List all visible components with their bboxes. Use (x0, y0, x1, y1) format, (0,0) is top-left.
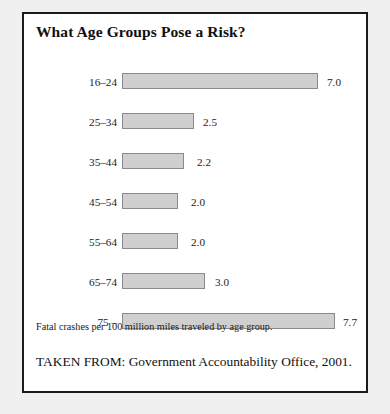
bar-row: 65–74 3.0 (24, 273, 366, 291)
bar-row: 45–54 2.0 (24, 193, 366, 211)
bar-rect (122, 193, 178, 209)
bar-rect (122, 153, 184, 169)
bar-value-label: 2.0 (191, 234, 205, 250)
bar-category-label: 55–64 (24, 234, 117, 250)
bar-row: 35–44 2.2 (24, 153, 366, 171)
bar-row: 25–34 2.5 (24, 113, 366, 131)
bar-category-label: 16–24 (24, 74, 117, 90)
source-attribution: TAKEN FROM: Government Accountability Of… (36, 354, 352, 370)
bar-value-label: 2.0 (191, 194, 205, 210)
bar-row: 55–64 2.0 (24, 233, 366, 251)
chart-title: What Age Groups Pose a Risk? (36, 23, 246, 41)
chart-caption: Fatal crashes per 100 million miles trav… (36, 321, 273, 332)
bar-category-label: 25–34 (24, 114, 117, 130)
bar-value-label: 3.0 (215, 274, 229, 290)
bar-row: 16–24 7.0 (24, 73, 366, 91)
bar-value-label: 7.7 (343, 314, 357, 330)
bar-rect (122, 73, 318, 89)
bar-rect (122, 113, 194, 129)
bar-rect (122, 233, 178, 249)
bar-value-label: 7.0 (327, 74, 341, 90)
figure-container: What Age Groups Pose a Risk? 16–24 7.0 2… (22, 12, 368, 393)
bar-category-label: 45–54 (24, 194, 117, 210)
bar-category-label: 35–44 (24, 154, 117, 170)
bar-value-label: 2.5 (203, 114, 217, 130)
bar-value-label: 2.2 (197, 154, 211, 170)
bar-category-label: 65–74 (24, 274, 117, 290)
bar-rect (122, 273, 205, 289)
bar-chart-plot-area: 16–24 7.0 25–34 2.5 35–44 2.2 45–54 2.0 … (24, 51, 366, 319)
